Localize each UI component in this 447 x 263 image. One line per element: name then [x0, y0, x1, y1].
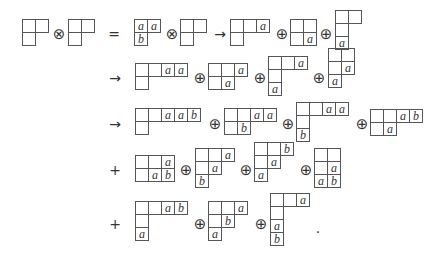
tableau-cell	[327, 148, 341, 162]
otimes-2-symbol: ⊗	[166, 27, 179, 41]
tableau-cell	[243, 19, 257, 33]
tableau-cell	[135, 121, 149, 135]
tableau-cell: a	[208, 227, 222, 241]
tableau-cell: a	[254, 168, 268, 182]
tableau-cell	[135, 168, 149, 182]
oplus-5-symbol: ⊕	[313, 71, 326, 85]
tableau-cell	[370, 122, 384, 136]
tableau-cell	[296, 115, 310, 129]
tableau-cell	[268, 69, 282, 83]
oplus-11-symbol: ⊕	[300, 163, 313, 177]
tableau-cell: b	[237, 121, 251, 135]
tableau-cell	[335, 10, 349, 24]
tableau-cell: b	[195, 174, 209, 188]
tableau-cell	[221, 201, 235, 215]
oplus-7-symbol: ⊕	[282, 117, 295, 131]
tableau-cell: a	[221, 148, 235, 162]
tableau-cell: a	[327, 161, 341, 175]
tableau-cell	[148, 108, 162, 122]
tableau-cell: a	[263, 108, 277, 122]
tableau-cell	[267, 142, 281, 156]
tableau-cell: a	[256, 19, 270, 33]
tableau-cell	[268, 56, 282, 70]
tableau-cell	[68, 19, 82, 33]
tableau-cell: b	[134, 32, 148, 46]
tableau-cell: a	[135, 227, 149, 241]
period-symbol: .	[316, 221, 320, 235]
tableau-cell: a	[221, 76, 235, 90]
tableau-cell: a	[303, 32, 317, 46]
tableau-cell: a	[383, 122, 397, 136]
tableau-cell	[135, 155, 149, 169]
tableau-cell: b	[174, 201, 188, 215]
tableau-cell	[328, 61, 342, 75]
tableau-cell	[193, 19, 207, 33]
tableau-cell: b	[327, 174, 341, 188]
arrow-1-symbol: →	[214, 27, 226, 41]
tableau-cell: a	[328, 74, 342, 88]
oplus-8-symbol: ⊕	[356, 117, 369, 131]
tableau-cell	[328, 48, 342, 62]
tableau-cell: a	[174, 63, 188, 77]
oplus-1-symbol: ⊕	[276, 27, 289, 41]
tableau-cell	[135, 201, 149, 215]
tableau-cell	[383, 109, 397, 123]
tableau-cell: a	[396, 109, 410, 123]
tableau-cell	[281, 56, 295, 70]
oplus-9-symbol: ⊕	[180, 163, 193, 177]
tableau-cell: b	[221, 214, 235, 228]
tableau-cell: a	[234, 201, 248, 215]
tableau-cell: a	[161, 155, 175, 169]
young-tableaux-tensor-product-diagram: aabaaaaaaaaaaaaabaabaababaaabaabbaaaabab…	[0, 0, 447, 263]
tableau-cell	[135, 214, 149, 228]
tableau-cell	[237, 108, 251, 122]
tableau-cell	[314, 161, 328, 175]
tableau-cell	[148, 201, 162, 215]
tableau-cell	[270, 206, 284, 220]
tableau-cell	[135, 108, 149, 122]
plus-1-symbol: +	[109, 163, 121, 177]
tableau-cell	[81, 19, 95, 33]
tableau-cell	[224, 108, 238, 122]
tableau-cell	[180, 32, 194, 46]
tableau-cell	[35, 19, 49, 33]
tableau-cell	[208, 148, 222, 162]
tableau-cell	[195, 161, 209, 175]
oplus-6-symbol: ⊕	[209, 117, 222, 131]
tableau-cell	[254, 155, 268, 169]
tableau-cell	[303, 19, 317, 33]
tableau-cell	[208, 214, 222, 228]
oplus-12-symbol: ⊕	[194, 217, 207, 231]
tableau-cell	[290, 32, 304, 46]
arrow-3-symbol: →	[109, 117, 121, 131]
tableau-cell	[68, 32, 82, 46]
tableau-cell	[135, 76, 149, 90]
tableau-cell	[148, 63, 162, 77]
tableau-cell: a	[296, 193, 310, 207]
tableau-cell: a	[270, 219, 284, 233]
tableau-cell	[296, 102, 310, 116]
tableau-cell	[254, 142, 268, 156]
oplus-2-symbol: ⊕	[320, 27, 333, 41]
tableau-cell: a	[208, 161, 222, 175]
tableau-cell	[22, 19, 36, 33]
tableau-cell	[221, 63, 235, 77]
tableau-cell	[283, 193, 297, 207]
tableau-cell	[195, 148, 209, 162]
tableau-cell: b	[296, 128, 310, 142]
tableau-cell: a	[174, 108, 188, 122]
tableau-cell: a	[161, 63, 175, 77]
tableau-cell	[309, 102, 323, 116]
tableau-cell	[230, 19, 244, 33]
oplus-3-symbol: ⊕	[194, 71, 207, 85]
tableau-cell	[208, 76, 222, 90]
tableau-cell: b	[280, 142, 294, 156]
tableau-cell: a	[335, 102, 349, 116]
tableau-cell: a	[234, 63, 248, 77]
tableau-cell: b	[187, 108, 201, 122]
tableau-cell	[341, 48, 355, 62]
oplus-13-symbol: ⊕	[255, 217, 268, 231]
tableau-cell	[290, 19, 304, 33]
tableau-cell: a	[161, 108, 175, 122]
tableau-cell	[230, 32, 244, 46]
